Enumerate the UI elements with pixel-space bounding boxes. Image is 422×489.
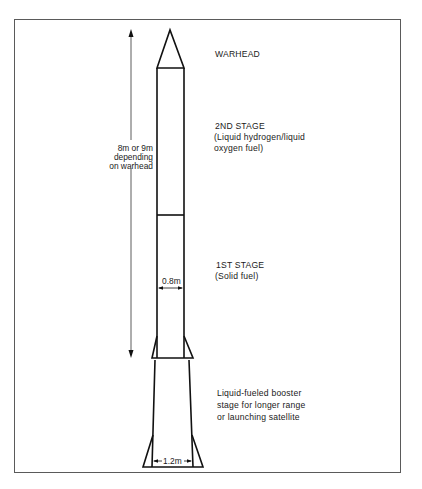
arrow-up-icon <box>129 29 134 37</box>
first-stage-title: 1ST STAGE <box>216 260 264 271</box>
arrow-left-icon <box>158 286 163 289</box>
rocket-body <box>157 68 184 358</box>
warhead-label: WARHEAD <box>215 49 260 60</box>
second-stage-fuel-line2: oxygen fuel) <box>214 143 263 154</box>
warhead-cone <box>157 30 184 68</box>
booster-label-line1: Liquid-fueled booster <box>217 388 301 399</box>
booster-label-line2: stage for longer range <box>217 400 305 411</box>
second-stage-title: 2ND STAGE <box>215 121 265 132</box>
arrow-left-icon <box>153 459 158 462</box>
booster-label-line3: or launching satellite <box>217 412 300 423</box>
second-stage-fuel-line1: (Liquid hydrogen/liquid <box>214 132 305 143</box>
arrow-down-icon <box>129 350 134 358</box>
first-stage-fuel: (Solid fuel) <box>215 271 258 282</box>
rocket-drawing <box>0 0 422 489</box>
arrow-right-icon <box>178 286 183 289</box>
arrow-right-icon <box>187 459 192 462</box>
booster-diameter-label: 1.2m <box>163 456 182 466</box>
length-dimension-arrow <box>129 29 134 358</box>
length-label-line3: on warhead <box>100 161 153 171</box>
body-diameter-arrow <box>158 286 183 289</box>
booster-body <box>152 360 193 467</box>
rocket-outline <box>143 30 203 467</box>
body-diameter-label: 0.8m <box>162 276 181 286</box>
first-stage-fins <box>152 336 193 358</box>
